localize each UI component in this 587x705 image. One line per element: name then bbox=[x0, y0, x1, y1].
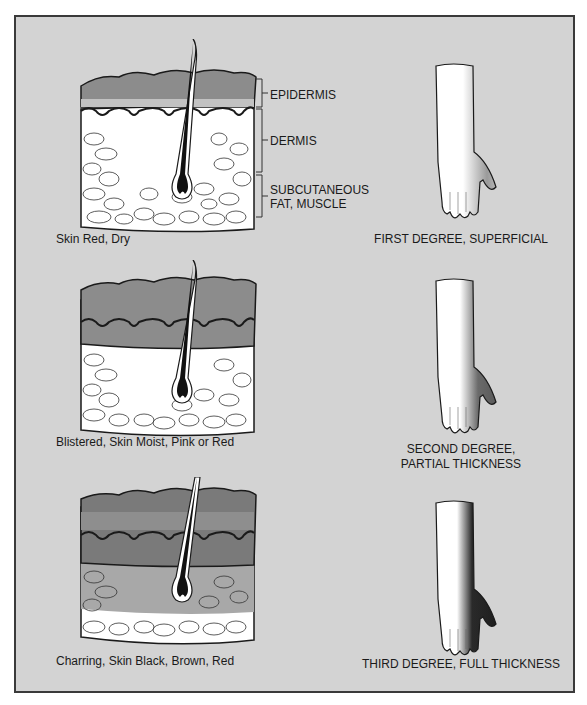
label-subcutaneous: SUBCUTANEOUS FAT, MUSCLE bbox=[270, 183, 369, 211]
degree-label-first: FIRST DEGREE, SUPERFICIAL bbox=[361, 232, 561, 247]
panel-first-degree: EPIDERMIS DERMIS SUBCUTANEOUS FAT, MUSCL… bbox=[16, 17, 573, 247]
skin-cross-section-first-degree bbox=[64, 39, 274, 239]
caption-skin-third-degree: Charring, Skin Black, Brown, Red bbox=[56, 654, 234, 668]
panel-third-degree: Charring, Skin Black, Brown, Red THIRD D… bbox=[16, 477, 573, 687]
degree-label-second-line1: SECOND DEGREE, bbox=[361, 442, 561, 457]
label-subcutaneous-line2: FAT, MUSCLE bbox=[270, 197, 369, 211]
degree-label-third-line1: THIRD DEGREE, FULL THICKNESS bbox=[361, 657, 561, 672]
skin-cross-section-second-degree bbox=[64, 260, 274, 440]
label-epidermis: EPIDERMIS bbox=[270, 88, 336, 102]
caption-skin-second-degree: Blistered, Skin Moist, Pink or Red bbox=[56, 435, 234, 449]
panel-second-degree: Blistered, Skin Moist, Pink or Red SECON… bbox=[16, 252, 573, 477]
degree-label-second: SECOND DEGREE, PARTIAL THICKNESS bbox=[361, 442, 561, 472]
degree-label-first-line1: FIRST DEGREE, SUPERFICIAL bbox=[361, 232, 561, 247]
degree-label-third: THIRD DEGREE, FULL THICKNESS bbox=[361, 657, 561, 672]
caption-skin-first-degree: Skin Red, Dry bbox=[56, 232, 130, 246]
label-dermis: DERMIS bbox=[270, 134, 317, 148]
diagram-frame: EPIDERMIS DERMIS SUBCUTANEOUS FAT, MUSCL… bbox=[14, 15, 575, 693]
label-subcutaneous-line1: SUBCUTANEOUS bbox=[270, 183, 369, 197]
arm-first-degree bbox=[428, 62, 498, 222]
skin-cross-section-third-degree bbox=[64, 477, 274, 652]
arm-second-degree bbox=[428, 277, 498, 437]
degree-label-second-line2: PARTIAL THICKNESS bbox=[361, 457, 561, 472]
arm-third-degree bbox=[428, 499, 498, 659]
